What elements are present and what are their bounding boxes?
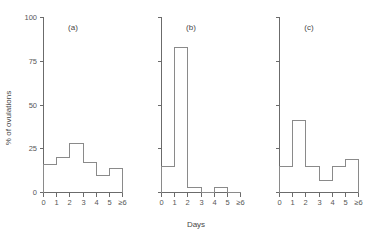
x-tick-label: 3 (81, 198, 85, 207)
x-tick-label: 4 (330, 198, 334, 207)
x-tick-label: 5 (343, 198, 347, 207)
panel-label-b: (b) (186, 23, 196, 32)
y-axis-title: % of ovulations (4, 91, 13, 145)
panel-b: 012345≥6(b) (158, 17, 245, 207)
x-tick-label: 1 (54, 198, 58, 207)
x-tick-label: ≥6 (118, 198, 126, 207)
y-tick-label: 100 (24, 13, 37, 22)
x-tick-label: 2 (185, 198, 189, 207)
figure-container: % of ovulations Days 0255075100012345≥6(… (0, 0, 389, 245)
y-tick-label: 50 (29, 101, 37, 110)
x-tick-label: 0 (277, 198, 281, 207)
x-tick-label: 0 (41, 198, 45, 207)
x-tick-label: 0 (159, 198, 163, 207)
x-tick-label: 2 (67, 198, 71, 207)
histogram-outline (162, 48, 241, 193)
y-tick-label: 0 (33, 188, 37, 197)
x-tick-label: ≥6 (354, 198, 362, 207)
histogram-figure: % of ovulations Days 0255075100012345≥6(… (0, 0, 389, 245)
x-tick-label: ≥6 (236, 198, 244, 207)
x-tick-label: 5 (225, 198, 229, 207)
panel-label-c: (c) (304, 23, 314, 32)
x-tick-label: 4 (212, 198, 216, 207)
x-tick-label: 1 (172, 198, 176, 207)
x-tick-label: 2 (303, 198, 307, 207)
panels-group: 0255075100012345≥6(a)012345≥6(b)012345≥6… (24, 13, 362, 207)
y-tick-label: 75 (29, 57, 37, 66)
panel-label-a: (a) (68, 23, 78, 32)
x-tick-label: 1 (290, 198, 294, 207)
x-tick-label: 5 (107, 198, 111, 207)
x-tick-label: 3 (199, 198, 203, 207)
histogram-outline (280, 121, 359, 193)
panel-c: 012345≥6(c) (276, 17, 363, 207)
x-tick-label: 3 (317, 198, 321, 207)
x-tick-label: 4 (94, 198, 98, 207)
histogram-outline (44, 144, 123, 193)
y-tick-label: 25 (29, 144, 37, 153)
panel-a: 0255075100012345≥6(a) (24, 13, 126, 207)
x-axis-title: Days (187, 220, 205, 229)
